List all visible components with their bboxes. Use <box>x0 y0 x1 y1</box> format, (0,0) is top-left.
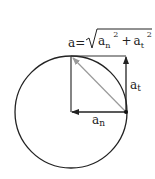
normal-label: an <box>92 113 105 128</box>
circular-motion-diagram: at an a= an2+at2 <box>0 0 155 179</box>
tangential-label: at <box>130 78 141 93</box>
magnitude-formula: a= an2+at2 <box>68 29 152 50</box>
particle-point <box>124 110 128 114</box>
svg-text:a=: a= <box>68 36 85 50</box>
resultant-acceleration-vector <box>73 58 126 112</box>
svg-text:an2+at2: an2+at2 <box>98 30 152 50</box>
